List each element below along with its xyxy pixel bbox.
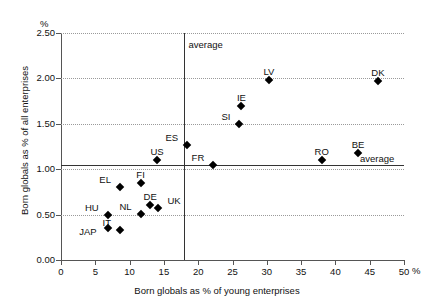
data-point-label: LV xyxy=(263,67,274,77)
average-label: average xyxy=(360,153,394,164)
data-point-label: IE xyxy=(237,93,246,103)
x-tick xyxy=(198,260,199,265)
data-point-marker xyxy=(116,183,124,191)
y-tick-label: 0.00 xyxy=(21,255,55,264)
data-point-label: DK xyxy=(371,68,384,78)
data-point-label: DE xyxy=(144,192,157,202)
plot-area: JAPHUITELFINLDEUKUSESFRSIIELVROBEDK xyxy=(61,33,404,260)
x-tick xyxy=(267,260,268,265)
data-point-marker xyxy=(237,101,245,109)
x-tick xyxy=(301,260,302,265)
data-point-marker xyxy=(265,76,273,84)
data-point-label: SI xyxy=(221,112,230,122)
x-tick-label: 45 xyxy=(355,267,385,277)
x-tick xyxy=(61,260,62,265)
data-point-marker xyxy=(153,156,161,164)
data-point-label: FI xyxy=(136,170,144,180)
data-point-label: ES xyxy=(166,133,179,143)
data-point-label: RO xyxy=(315,147,329,157)
data-point-marker xyxy=(154,204,162,212)
x-tick-label: 10 xyxy=(115,267,145,277)
data-point-marker xyxy=(374,77,382,85)
data-point-marker xyxy=(209,160,217,168)
x-tick xyxy=(233,260,234,265)
data-point-marker xyxy=(317,156,325,164)
data-point-label: IT xyxy=(103,218,111,228)
y-axis-title: Born globals as % of all enterprises xyxy=(19,31,30,251)
x-tick-label: 20 xyxy=(183,267,213,277)
x-tick-label: 0 xyxy=(46,267,76,277)
data-point-marker xyxy=(235,120,243,128)
x-tick-label: 40 xyxy=(320,267,350,277)
x-tick xyxy=(335,260,336,265)
x-tick xyxy=(130,260,131,265)
x-tick xyxy=(404,260,405,265)
x-tick xyxy=(95,260,96,265)
average-line xyxy=(61,165,404,166)
data-point-marker xyxy=(116,226,124,234)
data-point-label: US xyxy=(150,147,163,157)
x-tick-label: 35 xyxy=(286,267,316,277)
x-tick xyxy=(370,260,371,265)
data-point-marker xyxy=(136,179,144,187)
x-tick-label: 5 xyxy=(80,267,110,277)
x-tick-label: 15 xyxy=(149,267,179,277)
x-tick-label: 50 xyxy=(389,267,419,277)
data-point-label: JAP xyxy=(79,227,96,237)
data-point-marker xyxy=(136,209,144,217)
data-point-label: HU xyxy=(85,203,99,213)
data-point-label: NL xyxy=(119,202,131,212)
x-axis-title: Born globals as % of young enterprises xyxy=(0,285,434,296)
data-point-label: EL xyxy=(99,175,111,185)
data-point-label: FR xyxy=(192,153,205,163)
x-tick-label: 25 xyxy=(218,267,248,277)
data-point-label: BE xyxy=(352,140,365,150)
x-tick xyxy=(164,260,165,265)
data-point-label: UK xyxy=(167,196,180,206)
scatter-chart: % % 0.000.501.001.502.002.50 05101520253… xyxy=(0,0,434,307)
x-tick-label: 30 xyxy=(252,267,282,277)
average-label: average xyxy=(188,39,222,50)
